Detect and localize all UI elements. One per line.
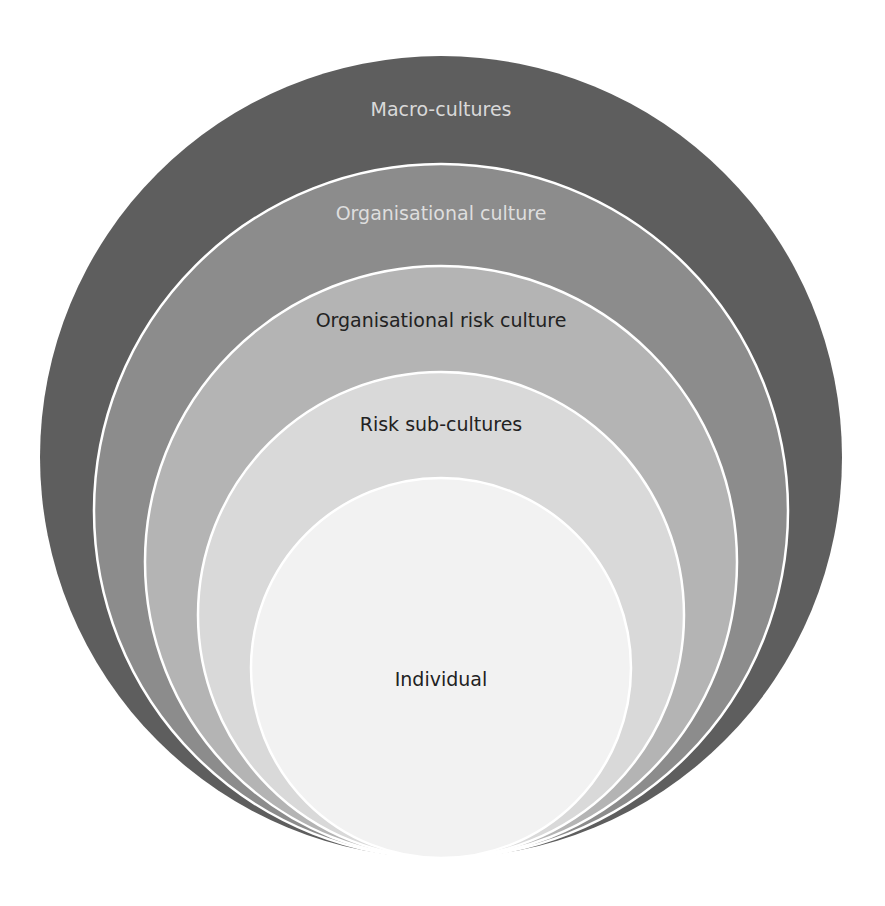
label-macro-cultures: Macro-cultures	[371, 98, 512, 120]
label-risk-sub-cultures: Risk sub-cultures	[360, 413, 523, 435]
label-individual: Individual	[395, 668, 488, 690]
label-organisational-risk-culture: Organisational risk culture	[316, 309, 567, 331]
label-organisational-culture: Organisational culture	[336, 202, 547, 224]
nested-culture-diagram: Macro-culturesOrganisational cultureOrga…	[0, 0, 885, 906]
